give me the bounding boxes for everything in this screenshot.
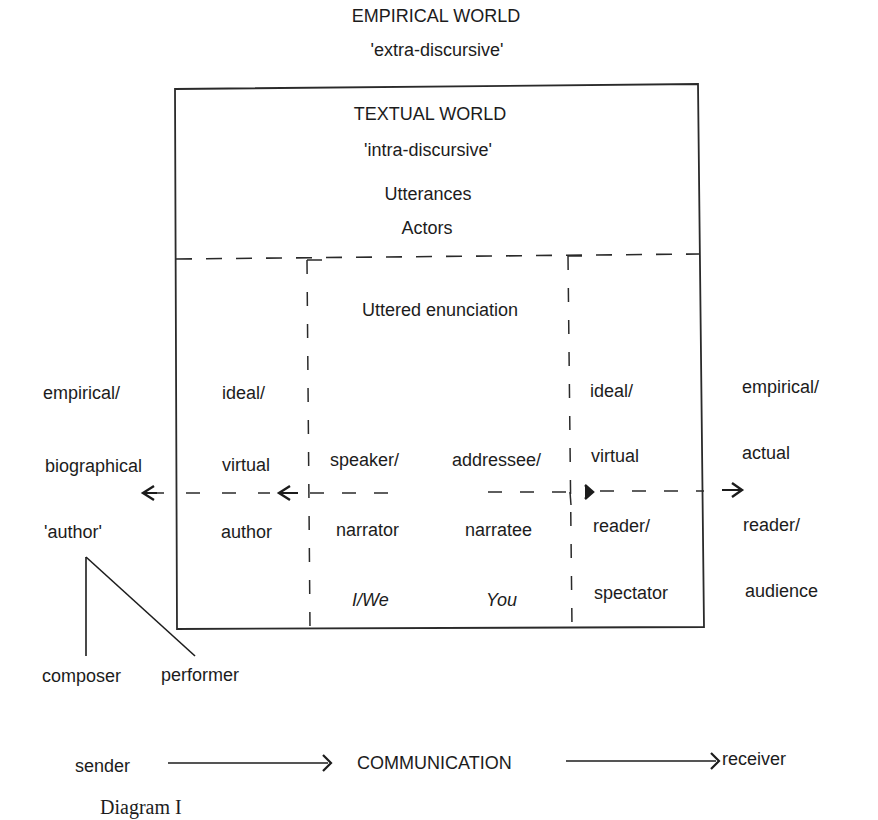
empirical-author-line1: empirical/ xyxy=(43,383,120,403)
ideal-author-line1: ideal/ xyxy=(222,383,265,403)
empirical-reader-line1: empirical/ xyxy=(742,377,819,397)
extra-discursive-label: 'extra-discursive' xyxy=(371,40,504,60)
textual-world-title: TEXTUAL WORLD xyxy=(354,104,506,124)
left-arrow-icon xyxy=(143,486,157,500)
actors-label: Actors xyxy=(401,218,452,238)
inner-right-chevron-icon xyxy=(585,485,593,499)
ideal-reader-line2: virtual xyxy=(591,446,639,466)
inner-left-dashed-vertical xyxy=(307,260,310,628)
ideal-reader-line3: reader/ xyxy=(593,516,650,536)
uttered-enunciation-label: Uttered enunciation xyxy=(362,300,518,320)
receiver-label: receiver xyxy=(722,749,786,769)
i-we-label: I/We xyxy=(352,590,389,610)
narrator-label: narrator xyxy=(336,520,399,540)
empirical-world-title: EMPIRICAL WORLD xyxy=(352,6,520,26)
empirical-author-line2: biographical xyxy=(45,456,142,476)
performer-line xyxy=(86,557,195,656)
composer-label: composer xyxy=(42,666,121,686)
inner-right-bracket xyxy=(570,492,571,505)
addressee-label: addressee/ xyxy=(452,450,541,470)
empirical-author-line3: 'author' xyxy=(44,522,102,542)
inner-left-arrow-icon xyxy=(279,486,298,500)
right-arrow-icon xyxy=(722,483,742,497)
textual-world-box xyxy=(175,84,704,629)
speaker-label: speaker/ xyxy=(330,450,399,470)
empirical-reader-line3: reader/ xyxy=(743,515,800,535)
empirical-reader-line2: actual xyxy=(742,443,790,463)
utterances-label: Utterances xyxy=(384,184,471,204)
empirical-reader-line4: audience xyxy=(745,581,818,601)
intra-discursive-label: 'intra-discursive' xyxy=(364,140,492,160)
ideal-author-line2: virtual xyxy=(222,455,270,475)
diagram-caption: Diagram I xyxy=(100,797,182,817)
inner-right-dashed-vertical xyxy=(568,256,572,627)
ideal-author-line3: author xyxy=(221,522,272,542)
performer-label: performer xyxy=(161,665,239,685)
textual-divider-dashed xyxy=(176,254,699,259)
sender-label: sender xyxy=(75,756,130,776)
you-label: You xyxy=(486,590,517,610)
ideal-reader-line1: ideal/ xyxy=(590,381,633,401)
ideal-reader-line4: spectator xyxy=(594,583,668,603)
communication-label: COMMUNICATION xyxy=(357,753,512,773)
narratee-label: narratee xyxy=(465,520,532,540)
